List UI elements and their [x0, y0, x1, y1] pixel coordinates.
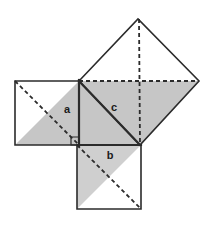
pythagorean-theorem-diagram: a b c	[0, 0, 209, 225]
label-b: b	[107, 149, 114, 161]
label-a: a	[64, 103, 71, 115]
figure-root: a b c	[0, 0, 209, 225]
label-c: c	[111, 101, 117, 113]
